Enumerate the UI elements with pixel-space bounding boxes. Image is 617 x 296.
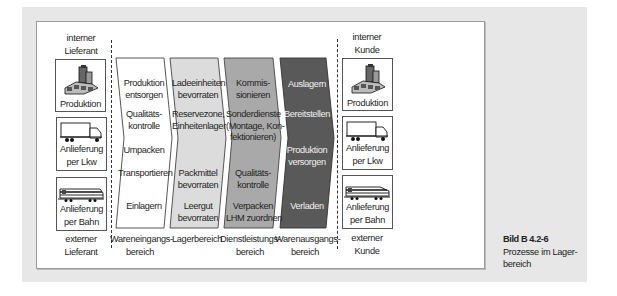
truck-icon — [344, 120, 390, 144]
box-label: Produktion — [343, 97, 392, 110]
box-label: Anlieferung per Bahn — [57, 203, 106, 228]
truck-icon — [58, 121, 104, 145]
left-box-produktion: Produktion — [55, 59, 106, 112]
factory-icon — [349, 63, 387, 97]
box-label: Anlieferung per Lkw — [57, 143, 106, 168]
box-label: Anlieferung per Bahn — [343, 201, 392, 226]
box-label: Anlieferung per Lkw — [343, 142, 392, 167]
train-icon — [57, 184, 105, 204]
factory-icon — [62, 64, 100, 98]
caption-text-cont: bereich — [503, 258, 577, 271]
area-label-lager: Lagerbereich — [169, 233, 225, 246]
box-label: Produktion — [56, 98, 105, 111]
separator-left — [111, 40, 112, 248]
separator-right — [337, 39, 338, 249]
right-box-bahn: Anlieferung per Bahn — [342, 175, 393, 229]
right-box-produktion: Produktion — [342, 58, 393, 111]
left-bottom-label: externer Lieferant — [56, 233, 106, 258]
right-box-lkw: Anlieferung per Lkw — [342, 116, 393, 170]
area-label-wareneingang: Wareneingangs- bereich — [110, 233, 170, 258]
figure-caption: Bild B 4.2-6 Prozesse im Lager- bereich — [503, 233, 577, 271]
area-label-dienstleistung: Dienstleistungs- bereich — [220, 233, 280, 258]
left-box-lkw: Anlieferung per Lkw — [56, 117, 107, 171]
caption-text: Prozesse im Lager- — [503, 246, 577, 259]
left-top-label: interner Lieferant — [56, 32, 106, 57]
area-label-warenausgang: Warenausgangs- bereich — [275, 233, 335, 258]
right-bottom-label: externer Kunde — [342, 232, 392, 257]
left-box-bahn: Anlieferung per Bahn — [56, 177, 107, 231]
train-icon — [343, 182, 391, 202]
caption-title: Bild B 4.2-6 — [503, 233, 577, 246]
right-top-label: interner Kunde — [342, 31, 392, 56]
